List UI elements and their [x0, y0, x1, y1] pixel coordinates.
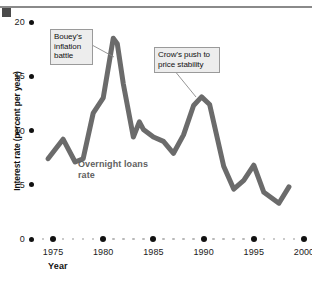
figure-root: Interest rate (percent per year) 0510152…	[0, 0, 312, 284]
annotation-callout-bouey: Bouey's inflation battle	[50, 29, 93, 65]
annotation-leaders-layer	[0, 0, 312, 284]
series-inline-label: Overnight loans rate	[78, 159, 148, 181]
leader-line-crow	[174, 70, 196, 97]
leader-line-bouey	[92, 45, 114, 57]
annotation-callout-crow: Crow's push to price stability	[154, 47, 220, 73]
plot-area: Interest rate (percent per year) 0510152…	[0, 0, 312, 284]
